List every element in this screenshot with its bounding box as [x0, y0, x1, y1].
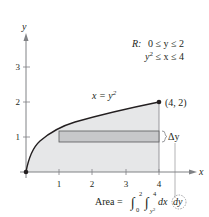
x-axis-arrow-icon — [189, 170, 197, 175]
y-axis-arrow-icon — [24, 33, 29, 41]
representative-strip — [59, 131, 159, 142]
svg-text:0: 0 — [136, 206, 139, 213]
svg-text:Area =: Area = — [95, 196, 123, 207]
y-tick-label-2: 2 — [16, 97, 21, 107]
x-tick-label-3: 3 — [124, 179, 129, 189]
x-tick-label-4: 4 — [157, 179, 162, 189]
svg-text:0 ≤ y ≤ 2: 0 ≤ y ≤ 2 — [148, 38, 184, 49]
svg-text:dx: dx — [158, 196, 168, 207]
y-tick-label-1: 1 — [16, 132, 21, 142]
differential-dy: dy — [173, 196, 183, 207]
y-tick-label-3: 3 — [16, 62, 21, 72]
svg-text:2: 2 — [139, 190, 142, 197]
delta-y-label: Δy — [168, 131, 179, 142]
svg-text:x = y2: x = y2 — [91, 89, 117, 101]
point-label: (4, 2) — [165, 97, 187, 109]
region-description: R: 0 ≤ y ≤ 2 y2 ≤ x ≤ 4 — [131, 38, 184, 62]
curve-equation-label: x = y2 — [91, 89, 117, 101]
brace-icon — [162, 131, 167, 142]
endpoint-4-2 — [157, 100, 162, 105]
svg-text:R:: R: — [131, 38, 141, 49]
x-axis-label: x — [198, 166, 204, 177]
area-formula: Area = ∫ 2 0 ∫ 4 y2 dx dy — [95, 190, 186, 214]
svg-text:y2: y2 — [149, 207, 155, 215]
y-axis-label: y — [21, 21, 27, 32]
x-tick-label-1: 1 — [57, 179, 62, 189]
svg-text:4: 4 — [153, 190, 157, 197]
origin-point — [24, 170, 29, 175]
svg-text:y2 ≤ x ≤ 4: y2 ≤ x ≤ 4 — [144, 50, 184, 62]
x-tick-label-2: 2 — [90, 179, 95, 189]
diagram-canvas: y x 1 2 3 4 1 2 3 x = y2 (4, 2) R: 0 ≤ y… — [0, 0, 209, 217]
